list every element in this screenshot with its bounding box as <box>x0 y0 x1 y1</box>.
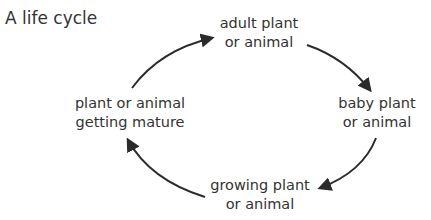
arrow-adult-to-baby <box>307 45 370 90</box>
cycle-arrows <box>0 0 431 220</box>
arrow-mature-to-adult <box>132 38 212 88</box>
arrow-baby-to-growing <box>320 138 376 188</box>
arrow-growing-to-mature <box>128 140 205 197</box>
